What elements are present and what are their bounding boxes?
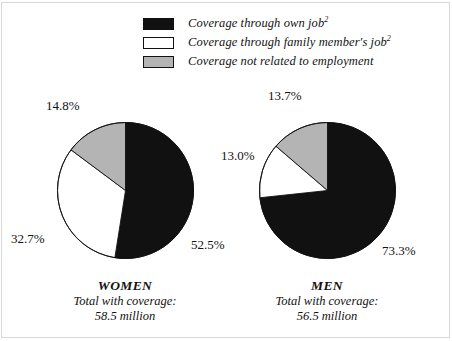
caption-men-total-value: 56.5 million: [232, 309, 422, 324]
legend: Coverage through own job2 Coverage throu…: [143, 14, 443, 71]
caption-men-total-label: Total with coverage:: [232, 294, 422, 309]
pie-men-label-black: 73.3%: [382, 243, 416, 259]
caption-women: WOMEN Total with coverage: 58.5 million: [30, 278, 220, 324]
legend-swatch-white-icon: [143, 37, 174, 49]
pie-women-label-gray: 14.8%: [46, 98, 80, 114]
caption-men: MEN Total with coverage: 56.5 million: [232, 278, 422, 324]
legend-item-own-job: Coverage through own job2: [143, 14, 443, 33]
pie-men-label-gray: 13.7%: [268, 88, 302, 104]
legend-footnote-own-job: 2: [324, 15, 328, 24]
pie-chart-figure: Coverage through own job2 Coverage throu…: [0, 0, 452, 341]
pie-men-label-white: 13.0%: [221, 148, 255, 164]
legend-label-own-job-text: Coverage through own job: [188, 17, 324, 31]
pie-women-label-black: 52.5%: [191, 237, 225, 253]
legend-label-own-job: Coverage through own job2: [188, 15, 328, 31]
legend-label-not-employment-text: Coverage not related to employment: [188, 54, 374, 68]
legend-item-family-job: Coverage through family member's job2: [143, 33, 443, 52]
legend-label-not-employment: Coverage not related to employment: [188, 54, 374, 69]
caption-women-total-value: 58.5 million: [30, 309, 220, 324]
legend-footnote-family-job: 2: [387, 34, 391, 43]
pie-men-slices: [260, 123, 396, 259]
caption-women-total-label: Total with coverage:: [30, 294, 220, 309]
caption-men-title: MEN: [232, 278, 422, 294]
pie-chart-women: [57, 122, 194, 259]
pie-women-label-white: 32.7%: [11, 231, 45, 247]
legend-swatch-gray-icon: [143, 56, 174, 68]
pie-chart-men: [259, 122, 396, 259]
pie-slice-women-black: [115, 123, 194, 259]
pie-women-svg: [57, 122, 194, 259]
caption-women-title: WOMEN: [30, 278, 220, 294]
pie-women-slices: [57, 123, 193, 259]
legend-label-family-job-text: Coverage through family member's job: [188, 36, 387, 50]
legend-label-family-job: Coverage through family member's job2: [188, 34, 391, 50]
legend-swatch-black-icon: [143, 18, 174, 30]
pie-men-svg: [259, 122, 396, 259]
legend-item-not-employment: Coverage not related to employment: [143, 52, 443, 71]
